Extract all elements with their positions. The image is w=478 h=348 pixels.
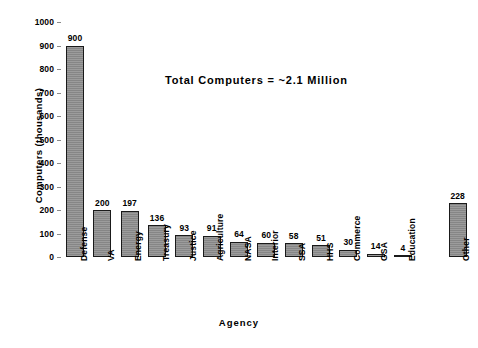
y-tick-mark (57, 187, 61, 188)
x-tick-label: Treasury (162, 224, 171, 261)
bar-group: 93 (171, 22, 198, 257)
y-tick-label: 800 (20, 65, 54, 74)
x-axis-title: Agency (0, 317, 478, 328)
y-tick-mark (57, 69, 61, 70)
bar-group: 900 (62, 22, 89, 257)
x-tick-label: Interior (271, 230, 280, 261)
y-tick-mark (57, 140, 61, 141)
bar-value-label: 228 (440, 192, 476, 201)
y-tick-mark (57, 234, 61, 235)
x-tick-label: Defense (80, 227, 89, 261)
bar-value-label: 136 (139, 214, 175, 223)
x-tick-label: VA (107, 249, 116, 261)
y-tick-mark (57, 46, 61, 47)
y-tick-mark (57, 257, 61, 258)
bar-group: 136 (144, 22, 171, 257)
chart-annotation-total: Total Computers = ~2.1 Million (165, 74, 348, 86)
y-tick-label: 700 (20, 89, 54, 98)
y-tick-label: 200 (20, 206, 54, 215)
y-tick-mark (57, 22, 61, 23)
y-axis-title: Computers (thousands) (33, 46, 44, 246)
y-tick-label: 900 (20, 42, 54, 51)
y-tick-label: 100 (20, 230, 54, 239)
bar-chart: Computers (thousands) 010020030040050060… (0, 0, 478, 348)
bar-group: 228 (445, 22, 472, 257)
bar-group: 60 (253, 22, 280, 257)
y-tick-label: 600 (20, 112, 54, 121)
x-tick-label: GSA (380, 242, 389, 261)
bar-group: 64 (226, 22, 253, 257)
x-tick-label: Justice (189, 230, 198, 261)
y-tick-label: 400 (20, 159, 54, 168)
x-tick-label: Other (462, 237, 471, 261)
x-tick-label: Education (408, 218, 417, 261)
y-tick-mark (57, 116, 61, 117)
y-tick-mark (57, 163, 61, 164)
bar-group: 200 (89, 22, 116, 257)
x-tick-label: Agriculture (216, 213, 225, 261)
y-tick-label: 0 (20, 253, 54, 262)
bar-value-label: 197 (112, 199, 148, 208)
y-tick-mark (57, 210, 61, 211)
bar-group: 58 (281, 22, 308, 257)
x-tick-label: Commerce (353, 215, 362, 261)
y-tick-label: 500 (20, 136, 54, 145)
y-tick-mark (57, 93, 61, 94)
bar-value-label: 900 (57, 34, 93, 43)
x-tick-label: Energy (134, 231, 143, 261)
x-tick-label: NASA (244, 236, 253, 261)
x-tick-label: HHS (326, 242, 335, 261)
bar-group: 51 (308, 22, 335, 257)
bar[interactable] (66, 46, 84, 258)
y-tick-label: 1000 (20, 18, 54, 27)
x-tick-label: SSA (298, 243, 307, 261)
bar-group: 14 (363, 22, 390, 257)
y-tick-label: 300 (20, 183, 54, 192)
